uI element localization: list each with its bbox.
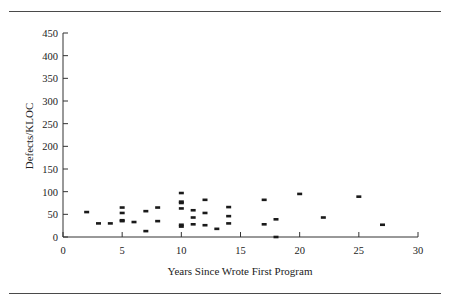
- x-tick-label: 10: [176, 245, 187, 256]
- y-tick-label: 300: [42, 96, 58, 107]
- data-point: [155, 206, 160, 209]
- data-point: [191, 216, 196, 219]
- axes: 051015202530050100150200250300350400450: [42, 28, 423, 256]
- data-point: [143, 210, 148, 213]
- data-point: [297, 193, 302, 196]
- data-point: [203, 224, 208, 227]
- data-point: [179, 202, 184, 205]
- x-tick-label: 15: [235, 245, 246, 256]
- data-point: [155, 220, 160, 223]
- data-point: [179, 192, 184, 195]
- data-point: [143, 230, 148, 233]
- data-point: [226, 206, 231, 209]
- data-points: [84, 192, 385, 239]
- y-tick-label: 100: [42, 187, 58, 198]
- y-tick-label: 250: [42, 119, 58, 130]
- x-tick-label: 5: [120, 245, 125, 256]
- data-point: [380, 223, 385, 226]
- y-tick-label: 50: [48, 209, 59, 220]
- data-point: [120, 212, 125, 215]
- data-point: [179, 207, 184, 210]
- data-point: [84, 211, 89, 214]
- x-tick-label: 20: [294, 245, 305, 256]
- data-point: [96, 222, 101, 225]
- x-axis-title: Years Since Wrote First Program: [168, 265, 313, 277]
- data-point: [274, 218, 279, 221]
- data-point: [356, 195, 361, 198]
- y-axis-title: Defects/KLOC: [23, 103, 35, 170]
- scatter-chart: 051015202530050100150200250300350400450 …: [0, 0, 454, 304]
- data-point: [226, 222, 231, 225]
- data-point: [191, 209, 196, 212]
- x-tick-label: 25: [354, 245, 365, 256]
- data-point: [226, 215, 231, 218]
- y-tick-label: 200: [42, 141, 58, 152]
- data-point: [274, 236, 279, 239]
- y-tick-label: 350: [42, 73, 58, 84]
- y-tick-label: 450: [42, 28, 58, 39]
- data-point: [108, 222, 113, 225]
- data-point: [132, 221, 137, 224]
- data-point: [191, 223, 196, 226]
- y-tick-label: 0: [53, 232, 58, 243]
- data-point: [262, 223, 267, 226]
- x-tick-label: 0: [60, 245, 65, 256]
- x-tick-label: 30: [413, 245, 424, 256]
- data-point: [120, 206, 125, 209]
- data-point: [179, 225, 184, 228]
- data-point: [262, 199, 267, 202]
- data-point: [203, 199, 208, 202]
- data-point: [321, 216, 326, 219]
- data-point: [214, 228, 219, 231]
- data-point: [203, 212, 208, 215]
- data-point: [120, 220, 125, 223]
- y-tick-label: 400: [42, 51, 58, 62]
- y-tick-label: 150: [42, 164, 58, 175]
